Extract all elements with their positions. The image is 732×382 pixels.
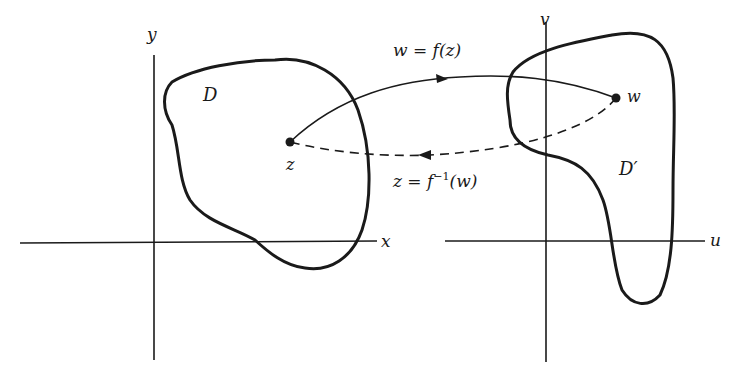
x-axis-label: x	[381, 233, 391, 250]
region-d-label: D	[203, 86, 217, 104]
v-axis-label: v	[540, 11, 550, 28]
point-w-label: w	[627, 89, 641, 105]
inverse-map-label-suffix: (w)	[450, 171, 478, 191]
region-d-boundary	[165, 59, 370, 268]
u-axis-label: u	[710, 232, 721, 249]
inverse-map-label-prefix: z = f	[393, 171, 433, 191]
point-z	[286, 138, 295, 147]
region-d-prime-boundary	[507, 33, 674, 303]
inverse-map-label: z = f−1(w)	[393, 171, 477, 190]
forward-map-curve	[290, 76, 616, 142]
point-z-label: z	[286, 157, 294, 173]
mapping-diagram	[0, 0, 732, 382]
point-w	[612, 94, 621, 103]
inverse-map-label-superscript: −1	[433, 170, 449, 183]
x-axis	[20, 241, 377, 243]
inverse-arrow-icon	[418, 150, 431, 160]
w-plane-axes	[445, 22, 705, 362]
y-axis-label: y	[147, 26, 157, 43]
forward-map-label: w = f(z)	[393, 42, 461, 59]
z-plane-axes	[20, 55, 377, 360]
forward-arrow-icon	[436, 74, 448, 83]
region-d-prime-label: D′	[619, 160, 638, 178]
